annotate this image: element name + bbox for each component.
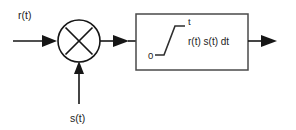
- integrand-expression: r(t) s(t) dt: [188, 36, 229, 47]
- input-arrow-head: [42, 35, 57, 47]
- integral-lower-limit: 0: [148, 50, 153, 61]
- input-signal-label: r(t): [18, 9, 31, 21]
- reference-signal-arrow: [74, 61, 84, 104]
- reference-arrow-head: [74, 61, 84, 74]
- multiplier-node: [58, 20, 100, 62]
- mid-arrow-head: [113, 35, 129, 47]
- integral-upper-limit: t: [188, 16, 191, 27]
- output-signal-arrow: [248, 35, 277, 47]
- input-signal-arrow: [13, 35, 57, 47]
- block-diagram-canvas: r(t) s(t) 0 t r(t) s(t) dt: [0, 0, 296, 130]
- reference-signal-label: s(t): [70, 112, 85, 124]
- output-arrow-head: [261, 35, 277, 47]
- multiplier-to-integrator-arrow: [100, 35, 136, 47]
- diagram-svg: r(t) s(t) 0 t r(t) s(t) dt: [0, 0, 296, 130]
